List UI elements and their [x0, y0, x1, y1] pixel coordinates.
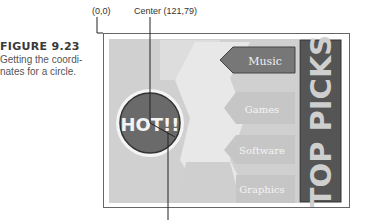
top-picks-label: TOP PICKS: [304, 35, 338, 207]
menu-label-graphics: Graphics: [239, 184, 285, 195]
image-map-graphic: Music Games Software Graphics HOT!! TOP …: [0, 0, 366, 220]
menu-label-music: Music: [248, 55, 282, 68]
menu-label-games: Games: [245, 104, 279, 115]
menu-label-software: Software: [239, 145, 285, 156]
